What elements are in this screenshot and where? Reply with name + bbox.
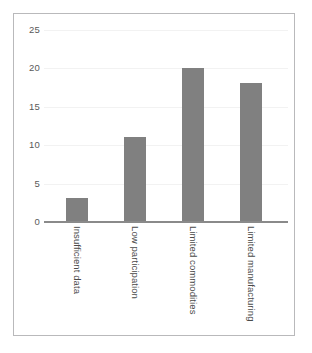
y-tick-label-15: 15 [14, 102, 40, 112]
y-tick-label-25: 25 [14, 25, 40, 35]
x-tick-label-limited-commodities: Limited commodities [189, 226, 199, 315]
bars-layer [44, 30, 288, 221]
x-tick-label-limited-manufacturing: Limited manufacturing [247, 226, 257, 322]
x-axis-category-labels: Insufficient data Low participation Limi… [44, 226, 288, 346]
bar-limited-manufacturing[interactable] [240, 83, 262, 221]
x-axis-line [44, 221, 288, 223]
x-tick-label-low-participation: Low participation [131, 226, 141, 299]
y-tick-label-20: 20 [14, 64, 40, 74]
y-tick-label-5: 5 [14, 179, 40, 189]
bar-insufficient-data[interactable] [66, 198, 88, 221]
y-tick-label-10: 10 [14, 140, 40, 150]
bar-low-participation[interactable] [124, 137, 146, 221]
x-tick-label-insufficient-data: Insufficient data [73, 226, 83, 294]
y-tick-label-0: 0 [14, 217, 40, 227]
bar-limited-commodities[interactable] [182, 68, 204, 221]
chart-screenshot: 25 20 15 10 5 0 Insufficient data Low pa… [0, 0, 312, 353]
y-axis-tick-labels: 25 20 15 10 5 0 [14, 0, 40, 353]
